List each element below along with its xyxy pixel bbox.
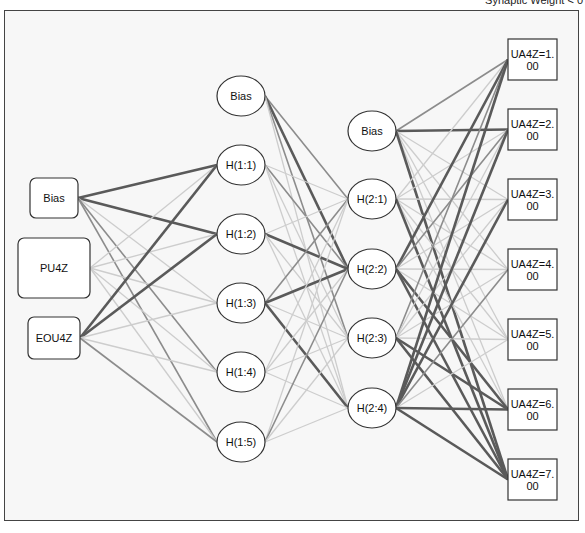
node-h2-bias: Bias — [348, 111, 396, 151]
connection-h1_2-h2_1 — [265, 199, 348, 234]
node-out-3: UA4Z=3.00 — [508, 179, 557, 220]
node-in-bias: Bias — [30, 178, 78, 218]
connection-in_pu4z-h1_5 — [90, 268, 217, 442]
node-label: UA4Z=7. — [511, 468, 555, 480]
node-label: UA4Z=3. — [511, 188, 555, 200]
node-label: H(2:3) — [357, 332, 388, 344]
node-label: 00 — [526, 270, 538, 282]
node-h1-bias: Bias — [217, 76, 265, 116]
node-out-6: UA4Z=6.00 — [508, 389, 557, 430]
node-out-1: UA4Z=1.00 — [508, 39, 557, 80]
connection-h2_4-out_6 — [396, 408, 508, 410]
node-out-2: UA4Z=2.00 — [508, 109, 557, 150]
node-h1-3: H(1:3) — [217, 283, 265, 323]
connection-in_bias-h1_5 — [78, 198, 217, 442]
node-label: 00 — [526, 340, 538, 352]
node-label: H(1:1) — [226, 159, 257, 171]
node-in-pu4z: PU4Z — [18, 238, 90, 298]
connection-in_eou4z-h1_1 — [80, 165, 217, 338]
node-out-4: UA4Z=4.00 — [508, 249, 557, 290]
node-label: Bias — [230, 90, 252, 102]
connection-in_pu4z-h1_3 — [90, 268, 217, 303]
node-h2-4: H(2:4) — [348, 388, 396, 428]
node-label: H(2:1) — [357, 193, 388, 205]
connection-h1_1-h2_1 — [265, 165, 348, 199]
node-label: 00 — [526, 60, 538, 72]
node-h1-4: H(1:4) — [217, 352, 265, 392]
node-label: UA4Z=1. — [511, 48, 555, 60]
node-label: EOU4Z — [36, 332, 73, 344]
node-label: 00 — [526, 480, 538, 492]
connection-in_bias-h1_2 — [78, 198, 217, 234]
node-label: PU4Z — [40, 262, 68, 274]
node-label: H(1:5) — [226, 436, 257, 448]
node-label: Bias — [43, 192, 65, 204]
synaptic-connections — [78, 60, 508, 480]
node-label: UA4Z=2. — [511, 118, 555, 130]
node-out-5: UA4Z=5.00 — [508, 319, 557, 360]
connection-in_eou4z-h1_5 — [80, 338, 217, 442]
node-h2-2: H(2:2) — [348, 249, 396, 289]
node-label: 00 — [526, 130, 538, 142]
node-label: UA4Z=4. — [511, 258, 555, 270]
connection-h2_bias-out_1 — [396, 60, 508, 132]
node-label: Bias — [361, 125, 383, 137]
node-h1-5: H(1:5) — [217, 422, 265, 462]
node-label: H(1:4) — [226, 366, 257, 378]
node-out-7: UA4Z=7.00 — [508, 459, 557, 500]
node-label: H(1:3) — [226, 297, 257, 309]
node-h2-3: H(2:3) — [348, 318, 396, 358]
node-h2-1: H(2:1) — [348, 179, 396, 219]
node-label: UA4Z=5. — [511, 328, 555, 340]
node-label: H(2:2) — [357, 263, 388, 275]
node-label: H(2:4) — [357, 402, 388, 414]
node-h1-2: H(1:2) — [217, 214, 265, 254]
node-label: UA4Z=6. — [511, 398, 555, 410]
node-label: H(1:2) — [226, 228, 257, 240]
connection-h1_5-h2_4 — [265, 408, 348, 442]
neural-network-diagram: BiasPU4ZEOU4ZBiasH(1:1)H(1:2)H(1:3)H(1:4… — [0, 0, 585, 533]
connection-h2_4-out_7 — [396, 408, 508, 480]
node-h1-1: H(1:1) — [217, 145, 265, 185]
node-label: 00 — [526, 410, 538, 422]
connection-in_eou4z-h1_3 — [80, 303, 217, 338]
connection-h1_5-h2_2 — [265, 269, 348, 442]
connection-h1_4-h2_1 — [265, 199, 348, 372]
connection-h2_4-out_1 — [396, 60, 508, 409]
node-label: 00 — [526, 200, 538, 212]
node-in-eou4z: EOU4Z — [28, 317, 80, 359]
